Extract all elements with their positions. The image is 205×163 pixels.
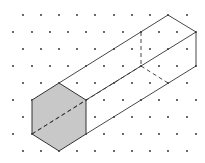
grid-dot — [176, 31, 178, 33]
grid-dot — [195, 99, 197, 101]
grid-dot — [22, 116, 24, 118]
grid-dot — [94, 116, 96, 118]
grid-dot — [76, 82, 78, 84]
grid-dot — [158, 133, 160, 135]
grid-dot — [186, 150, 188, 152]
hidden-edge — [141, 66, 168, 83]
grid-dot — [131, 150, 133, 152]
grid-dot — [149, 14, 151, 16]
grid-dot — [40, 48, 42, 50]
grid-dot — [131, 48, 133, 50]
grid-dot — [149, 48, 151, 50]
grid-dot — [94, 14, 96, 16]
grid-dot — [131, 14, 133, 16]
grid-dot — [186, 14, 188, 16]
grid-dot — [176, 65, 178, 67]
grid-dot — [186, 116, 188, 118]
grid-dot — [103, 31, 105, 33]
grid-dot — [176, 99, 178, 101]
grid-dot — [94, 48, 96, 50]
grid-dot — [103, 99, 105, 101]
grid-dot — [167, 150, 169, 152]
prism-canvas — [0, 0, 205, 163]
grid-dot — [158, 99, 160, 101]
grid-dot — [22, 150, 24, 152]
grid-dot — [122, 65, 124, 67]
grid-dot — [186, 48, 188, 50]
grid-dot — [67, 65, 69, 67]
grid-dot — [31, 65, 33, 67]
grid-dot — [140, 133, 142, 135]
grid-dot — [122, 133, 124, 135]
grid-dot — [94, 150, 96, 152]
grid-dot — [131, 116, 133, 118]
grid-dot — [49, 31, 51, 33]
grid-dot — [149, 116, 151, 118]
grid-dot — [58, 48, 60, 50]
grid-dot — [122, 99, 124, 101]
grid-dot — [40, 14, 42, 16]
grid-dot — [113, 150, 115, 152]
grid-dot — [12, 65, 14, 67]
grid-dot — [103, 65, 105, 67]
grid-dot — [12, 133, 14, 135]
visible-edge — [59, 15, 168, 83]
grid-dot — [149, 150, 151, 152]
grid-dot — [76, 48, 78, 50]
grid-dot — [31, 31, 33, 33]
grid-dot — [76, 14, 78, 16]
grid-dot — [85, 31, 87, 33]
visible-edge — [168, 15, 196, 32]
grid-dot — [76, 150, 78, 152]
grid-dot — [12, 31, 14, 33]
grid-dot — [122, 31, 124, 33]
grid-dot — [49, 65, 51, 67]
grid-dot — [113, 14, 115, 16]
grid-dot — [67, 31, 69, 33]
grid-dot — [131, 82, 133, 84]
grid-dot — [186, 82, 188, 84]
grid-dot — [22, 14, 24, 16]
grid-dot — [176, 133, 178, 135]
grid-dot — [12, 99, 14, 101]
grid-dot — [158, 65, 160, 67]
grid-dot — [158, 31, 160, 33]
grid-dot — [22, 82, 24, 84]
grid-dot — [22, 48, 24, 50]
grid-dot — [167, 116, 169, 118]
grid-dot — [103, 133, 105, 135]
grid-dot — [195, 133, 197, 135]
grid-dot — [58, 14, 60, 16]
grid-dot — [40, 150, 42, 152]
grid-dot — [149, 82, 151, 84]
visible-edge — [86, 66, 196, 134]
grid-dot — [40, 82, 42, 84]
grid-dot — [94, 82, 96, 84]
isometric-prism-diagram — [0, 0, 205, 163]
